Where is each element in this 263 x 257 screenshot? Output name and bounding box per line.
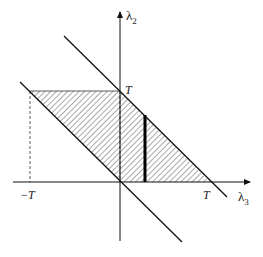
y-axis-subscript: 2 bbox=[132, 16, 137, 26]
diagram-canvas bbox=[0, 0, 263, 257]
y-tick-T: T bbox=[125, 84, 132, 96]
x-axis-label: λ3 bbox=[238, 190, 249, 207]
x-axis-subscript: 3 bbox=[244, 197, 249, 207]
y-axis-label: λ2 bbox=[126, 9, 137, 26]
x-tick-T: T bbox=[203, 189, 210, 201]
x-tick-neg-T: −T bbox=[20, 189, 35, 201]
diagram: λ2 λ3 T T −T bbox=[0, 0, 263, 257]
